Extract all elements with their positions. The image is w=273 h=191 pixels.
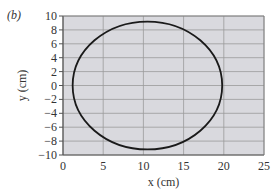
y-tick-label: 6 (51, 37, 57, 51)
y-tick-label: 10 (45, 9, 57, 23)
x-axis-title: x (cm) (148, 175, 180, 189)
y-tick-label: −8 (44, 134, 57, 148)
y-tick-label: 4 (51, 51, 57, 65)
y-tick-label: 2 (51, 65, 57, 79)
y-tick-label: −2 (44, 92, 57, 106)
x-tick-label: 20 (218, 159, 230, 173)
x-tick-label: 0 (60, 159, 66, 173)
y-tick-label: −10 (38, 148, 57, 162)
y-tick-label: −6 (44, 120, 57, 134)
chart: 1086420−2−4−6−8−100510152025x (cm)y (cm) (0, 0, 273, 191)
x-tick-label: 5 (100, 159, 106, 173)
x-tick-label: 25 (258, 159, 270, 173)
x-tick-label: 10 (137, 159, 149, 173)
y-tick-label: 0 (51, 79, 57, 93)
y-tick-label: 8 (51, 23, 57, 37)
x-tick-label: 15 (178, 159, 190, 173)
y-axis-title: y (cm) (15, 70, 29, 102)
y-tick-label: −4 (44, 106, 57, 120)
